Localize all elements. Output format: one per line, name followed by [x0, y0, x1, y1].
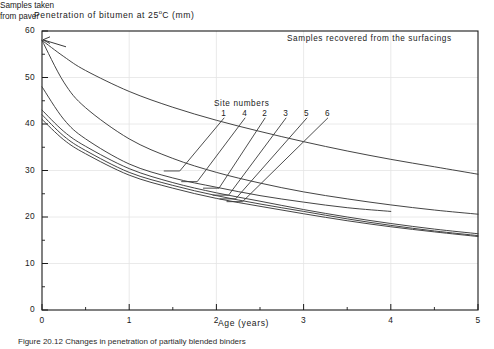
curve-site-3 — [42, 110, 478, 234]
y-tick-label-50: 50 — [11, 72, 35, 82]
site-number-label-3: 3 — [283, 109, 288, 118]
x-tick-label-0: 0 — [33, 315, 51, 325]
site-number-label-6: 6 — [325, 109, 330, 118]
y-tick-label-30: 30 — [11, 165, 35, 175]
leader-line-site-1 — [180, 118, 224, 171]
x-tick-label-1: 1 — [120, 315, 138, 325]
curve-site-4 — [42, 40, 478, 214]
site-number-label-1: 1 — [221, 109, 226, 118]
data-curves — [42, 40, 478, 236]
site-number-label-2: 2 — [262, 109, 267, 118]
x-tick-label-3: 3 — [295, 315, 313, 325]
y-tick-label-0: 0 — [11, 304, 35, 314]
y-axis-title-tail: C (mm) — [162, 10, 194, 20]
y-tick-label-60: 60 — [11, 25, 35, 35]
y-tick-label-10: 10 — [11, 258, 35, 268]
figure-container: Penetration of bitumen at 25oC (mm) Age … — [0, 0, 494, 349]
annotation-samples-recovered: Samples recovered from the surfacings — [287, 34, 452, 43]
paver-annotation-arrow — [43, 37, 66, 47]
site-number-label-5: 5 — [304, 109, 309, 118]
leader-line-site-4 — [197, 118, 245, 182]
figure-caption: Figure 20.12 Changes in penetration of p… — [18, 337, 488, 346]
y-axis-title-main: Penetration of bitumen at 25 — [34, 10, 159, 20]
x-tick-label-2: 2 — [207, 315, 225, 325]
x-axis-title: Age (years) — [218, 318, 269, 328]
curve-site-6 — [42, 119, 478, 236]
curve-site-5 — [42, 115, 478, 236]
site-number-label-4: 4 — [242, 109, 247, 118]
y-axis-title: Penetration of bitumen at 25oC (mm) — [34, 9, 194, 20]
chart-canvas — [0, 0, 494, 349]
x-tick-label-5: 5 — [469, 315, 487, 325]
leader-line-site-5 — [236, 118, 308, 199]
site-numbers-title: Site numbers — [214, 99, 269, 108]
y-tick-label-20: 20 — [11, 211, 35, 221]
x-tick-label-4: 4 — [382, 315, 400, 325]
y-tick-label-40: 40 — [11, 118, 35, 128]
